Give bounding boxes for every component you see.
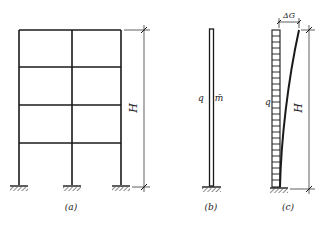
load-label-q-b: q (198, 93, 204, 103)
caption-b: (b) (205, 202, 218, 212)
caption-a: (a) (65, 202, 78, 212)
mass-label-m-b: m̄ (215, 93, 224, 103)
dimension-label-h-a: H (127, 103, 140, 114)
figure-a-frame (19, 30, 121, 185)
fixed-support-icon-c (270, 189, 288, 193)
fixed-support-icons-a (10, 186, 130, 191)
load-label-q-c: q (265, 97, 271, 107)
structural-diagram: H (a) q m̄ (b) (0, 0, 326, 227)
caption-c: (c) (282, 202, 295, 212)
dimension-label-h-c: H (292, 103, 305, 114)
figure-b-cantilever (202, 29, 221, 192)
displacement-label-delta-g: ΔG (282, 11, 296, 20)
fixed-support-icon-b (202, 188, 221, 192)
